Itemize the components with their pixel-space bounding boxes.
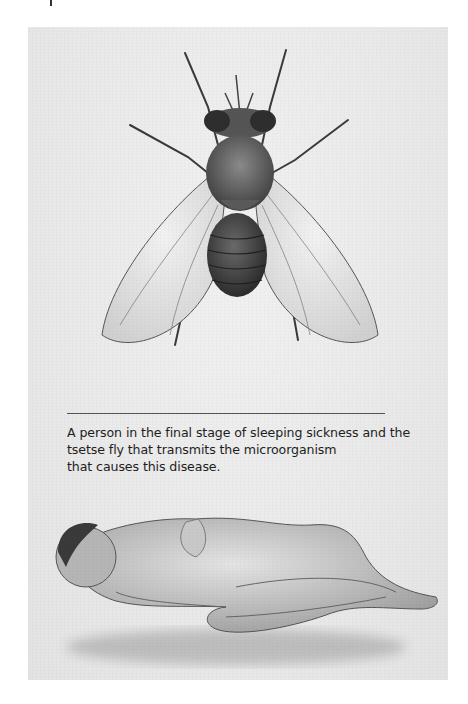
caption-line-3: that causes this disease.: [67, 458, 397, 475]
illustration-panel: A person in the final stage of sleeping …: [28, 27, 448, 680]
tsetse-fly-illustration: [90, 45, 390, 355]
caption-line-1: A person in the final stage of sleeping …: [67, 424, 397, 441]
page-margin-mark: [50, 0, 52, 6]
sleeping-sickness-patient-illustration: [36, 497, 446, 682]
figure-caption: A person in the final stage of sleeping …: [67, 424, 397, 475]
caption-divider: [67, 413, 385, 414]
caption-line-2: tsetse fly that transmits the microorgan…: [67, 441, 397, 458]
